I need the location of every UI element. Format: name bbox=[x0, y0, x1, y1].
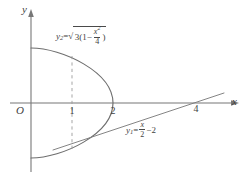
curve-equation-label: y2=√ 3(1− x2 4 ) bbox=[56, 26, 106, 47]
y-axis-label: y bbox=[22, 4, 27, 15]
line-eq-constant: −2 bbox=[146, 126, 156, 135]
y-axis bbox=[28, 9, 34, 172]
line-eq-equals: = bbox=[133, 126, 138, 135]
curve-eq-fraction-denominator: 4 bbox=[94, 37, 100, 47]
x-tick-label-1: 1 bbox=[66, 106, 78, 116]
line-eq-fraction-numerator: x bbox=[140, 121, 146, 130]
curve-eq-coefficient: 3(1− bbox=[75, 33, 92, 42]
x-axis-label: x bbox=[232, 96, 237, 107]
curve-eq-close-paren: ) bbox=[102, 33, 105, 42]
x-tick-label-2: 2 bbox=[107, 106, 119, 116]
curve-eq-subscript: 2 bbox=[60, 35, 63, 42]
math-graph-figure bbox=[0, 0, 247, 179]
curve-eq-exponent: 2 bbox=[97, 25, 100, 31]
x-tick-label-4: 4 bbox=[190, 104, 202, 114]
origin-label: O bbox=[16, 105, 24, 116]
line-eq-fraction-denominator: 2 bbox=[139, 129, 145, 139]
x-axis bbox=[10, 100, 239, 106]
line-eq-fraction: x 2 bbox=[139, 121, 145, 139]
line-eq-subscript: 1 bbox=[130, 129, 133, 136]
line-equation-label: y1= x 2 −2 bbox=[126, 121, 156, 139]
curve-eq-fraction-numerator: x2 bbox=[93, 28, 102, 37]
curve-eq-fraction: x2 4 bbox=[93, 28, 102, 46]
